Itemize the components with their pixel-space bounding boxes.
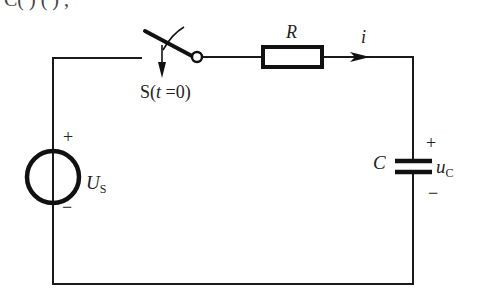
capacitor-plus-label: + (426, 133, 436, 154)
switch-icon (145, 27, 202, 78)
switch-label: S(t =0) (140, 82, 191, 103)
capacitor-minus-label: − (428, 183, 438, 204)
wire-bottom (53, 172, 413, 284)
resistor-label: R (286, 22, 297, 43)
capacitor-icon (395, 161, 432, 172)
circuit-diagram (0, 0, 484, 307)
current-label: i (361, 27, 366, 48)
wire-top-right (322, 57, 413, 162)
resistor-icon (263, 47, 322, 67)
capacitor-voltage-label: uC (436, 156, 454, 181)
source-label: US (86, 172, 106, 197)
source-plus-label: + (63, 127, 73, 148)
source-minus-label: − (62, 197, 72, 218)
capacitor-label: C (373, 152, 386, 174)
